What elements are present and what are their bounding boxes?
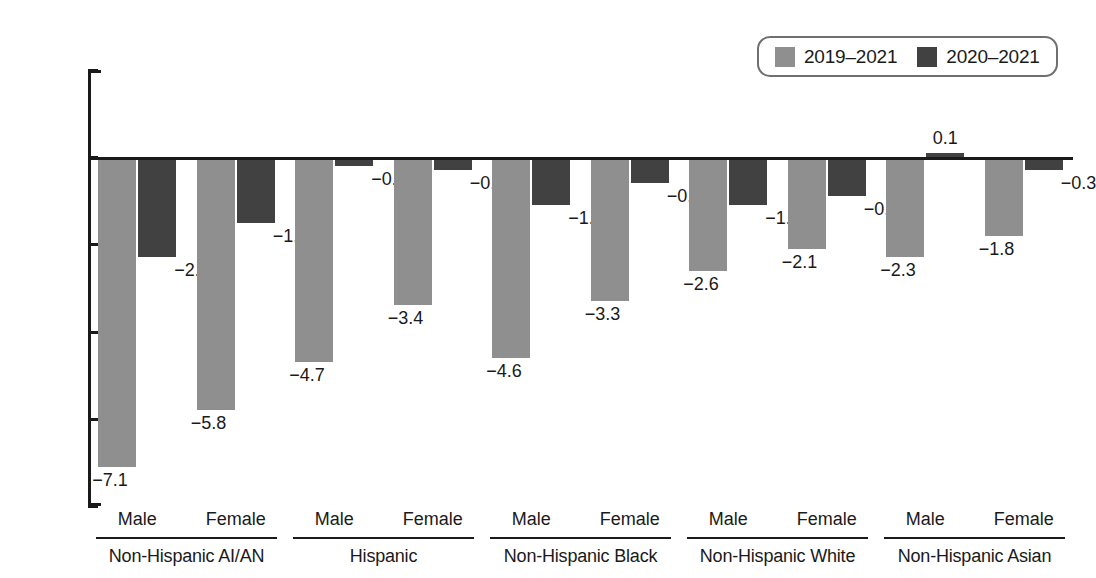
x-axis-group: MaleFemaleHispanic [285, 506, 482, 578]
x-axis-group: MaleFemaleNon-Hispanic White [679, 506, 876, 578]
legend-swatch-icon [775, 47, 795, 67]
x-axis-group-rule [687, 537, 868, 539]
x-axis-sex-label: Female [187, 510, 286, 528]
y-axis-tick [88, 418, 98, 421]
x-axis-group-rule [96, 537, 277, 539]
x-axis-labels: MaleFemaleNon-Hispanic AI/ANMaleFemaleHi… [88, 506, 1073, 578]
bar-value-label: −7.1 [92, 471, 128, 489]
x-axis-group-label: Non-Hispanic Black [482, 547, 679, 565]
bar-value-label: −5.8 [191, 414, 227, 432]
bar-value-label: −0.3 [1061, 174, 1096, 192]
x-axis-sex-label: Female [975, 510, 1074, 528]
bar [98, 157, 136, 467]
bar-value-label: −2.1 [782, 253, 818, 271]
bar [886, 157, 924, 257]
plot-area: 20−2−4−6−8−7.1−2.3−5.8−1.5−4.7−0.2−3.4−0… [88, 70, 1073, 506]
bar [729, 157, 767, 205]
x-axis-sex-label: Male [88, 510, 187, 528]
y-axis-tick [88, 331, 98, 334]
legend-item-label: 2020–2021 [946, 47, 1039, 66]
bar [237, 157, 275, 222]
x-axis-sex-label: Male [876, 510, 975, 528]
x-axis-group-rule [490, 537, 671, 539]
x-axis-group-label: Non-Hispanic AI/AN [88, 547, 285, 565]
bar-value-label: −3.3 [585, 305, 621, 323]
x-axis-group: MaleFemaleNon-Hispanic AI/AN [88, 506, 285, 578]
bar-value-label: −3.4 [388, 309, 424, 327]
x-axis-sex-label: Male [679, 510, 778, 528]
x-axis-sex-label: Female [581, 510, 680, 528]
y-axis-tick [88, 69, 98, 72]
legend-swatch-icon [917, 47, 937, 67]
legend-item-label: 2019–2021 [804, 47, 897, 66]
x-axis-group: MaleFemaleNon-Hispanic Black [482, 506, 679, 578]
x-axis-group-label: Non-Hispanic White [679, 547, 876, 565]
bar [591, 157, 629, 301]
bar-value-label: −1.8 [979, 240, 1015, 258]
y-axis-tick [88, 243, 98, 246]
legend-item[interactable]: 2019–2021 [775, 47, 897, 67]
bar [828, 157, 866, 196]
x-axis-group-label: Non-Hispanic Asian [876, 547, 1073, 565]
bar-value-label: −2.3 [880, 261, 916, 279]
x-axis-sex-label: Female [778, 510, 877, 528]
legend-item[interactable]: 2020–2021 [917, 47, 1039, 67]
bar [788, 157, 826, 249]
bar [631, 157, 669, 183]
x-axis-group-label: Hispanic [285, 547, 482, 565]
bar [138, 157, 176, 257]
x-axis-group: MaleFemaleNon-Hispanic Asian [876, 506, 1073, 578]
legend: 2019–2021 2020–2021 [757, 36, 1058, 77]
x-axis-sex-label: Male [285, 510, 384, 528]
bar [394, 157, 432, 305]
bar-value-label: −2.6 [683, 275, 719, 293]
bar [689, 157, 727, 270]
bar-value-label: 0.1 [914, 129, 976, 147]
x-axis-group-rule [293, 537, 474, 539]
y-axis-line [88, 70, 91, 506]
bar [197, 157, 235, 410]
bar [492, 157, 530, 358]
x-axis-group-rule [884, 537, 1065, 539]
bar-value-label: −4.7 [289, 366, 325, 384]
x-axis-sex-label: Male [482, 510, 581, 528]
bar [295, 157, 333, 362]
bar [985, 157, 1023, 235]
bar [532, 157, 570, 205]
bar-value-label: −4.6 [486, 362, 522, 380]
zero-baseline [88, 157, 1073, 160]
x-axis-sex-label: Female [384, 510, 483, 528]
